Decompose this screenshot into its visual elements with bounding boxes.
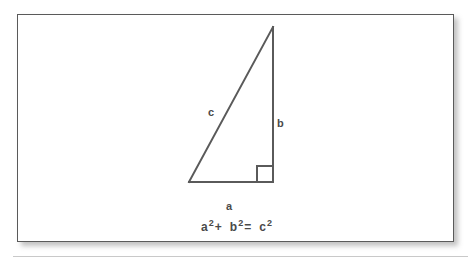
equation-term-b: b2 [230,221,243,233]
hypotenuse-line [189,27,273,182]
equation-term-c-base: c [259,220,266,234]
equation-term-c-exponent: 2 [267,218,272,228]
horizontal-leg-label: a [226,201,232,212]
equation-term-b-base: b [230,220,237,234]
equation-term-b-exponent: 2 [238,218,243,228]
equation-term-c: c2 [259,221,272,233]
equation-operator-plus: + [215,221,222,233]
vertical-leg-label: b [277,118,284,129]
page-canvas: c b a a2+b2=c2 [0,0,473,262]
equation-term-a: a2 [201,221,214,233]
triangle-drawing [18,15,455,243]
equation-term-a-exponent: 2 [209,218,214,228]
equation-term-a-base: a [201,220,208,234]
figure-card: c b a a2+b2=c2 [17,14,454,242]
bottom-separator-rule [13,256,468,257]
equation-operator-equals: = [244,221,251,233]
hypotenuse-label: c [208,107,214,118]
right-angle-marker-icon [257,166,273,182]
pythagorean-equation: a2+b2=c2 [18,221,455,233]
